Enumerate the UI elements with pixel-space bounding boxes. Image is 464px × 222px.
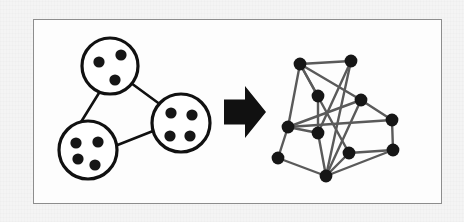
cluster-group: [59, 38, 210, 179]
node-upper-mid: [312, 90, 325, 103]
cluster-member-dot: [165, 107, 176, 118]
right-arrow-group: [224, 86, 266, 138]
cluster-outline: [82, 38, 138, 94]
node-center: [312, 127, 325, 140]
cluster-connector: [115, 131, 153, 146]
diagram-svg: [0, 0, 464, 222]
cluster-member-dot: [164, 130, 175, 141]
node-bottom-right: [387, 144, 400, 157]
cluster-right: [152, 94, 210, 152]
node-top-right: [345, 55, 358, 68]
cluster-member-dot: [70, 137, 81, 148]
graph-edge: [288, 64, 300, 127]
cluster-member-dot: [93, 56, 104, 67]
cluster-outline: [59, 121, 117, 179]
cluster-bottom-left: [59, 121, 117, 179]
node-bottom-left: [272, 152, 285, 165]
node-bottom-mid-right: [343, 147, 356, 160]
node-top-left: [294, 58, 307, 71]
graph-edge: [278, 158, 326, 176]
node-far-right: [386, 114, 399, 127]
figure-canvas: [0, 0, 464, 222]
cluster-member-dot: [115, 49, 126, 60]
node-mid-left: [282, 121, 295, 134]
cluster-member-dot: [186, 109, 197, 120]
right-arrow: [224, 86, 266, 138]
cluster-member-dot: [109, 74, 120, 85]
cluster-member-dot: [72, 153, 83, 164]
cluster-member-dot: [92, 136, 103, 147]
node-bottom-center: [320, 170, 333, 183]
graph-edge: [300, 61, 351, 64]
cluster-top: [82, 38, 138, 94]
cluster-connector: [81, 93, 99, 122]
node-mid-right: [355, 94, 368, 107]
cluster-connector: [131, 83, 161, 105]
graph-edge: [318, 133, 326, 176]
cluster-member-dot: [184, 130, 195, 141]
graph-edge-group: [278, 61, 393, 176]
cluster-outline: [152, 94, 210, 152]
cluster-member-dot: [89, 159, 100, 170]
